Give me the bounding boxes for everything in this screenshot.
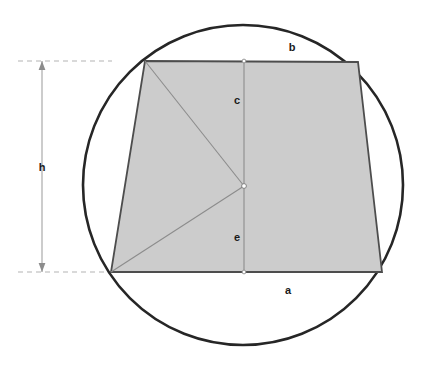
dimension-arrow-up-icon bbox=[39, 61, 46, 70]
figure-canvas bbox=[0, 0, 429, 368]
geometry-figure: bceah bbox=[0, 0, 429, 368]
dimension-arrow-down-icon bbox=[39, 263, 46, 272]
segment-label-e: e bbox=[234, 232, 240, 243]
segment-label-c: c bbox=[234, 95, 240, 106]
height-label-h: h bbox=[39, 162, 46, 173]
top-edge-midpoint-dot bbox=[242, 59, 246, 63]
side-label-a: a bbox=[285, 285, 291, 296]
side-label-b: b bbox=[289, 42, 296, 53]
bottom-edge-midpoint-dot bbox=[242, 270, 246, 274]
circle-center-dot bbox=[242, 184, 247, 189]
inscribed-trapezoid bbox=[111, 61, 382, 272]
